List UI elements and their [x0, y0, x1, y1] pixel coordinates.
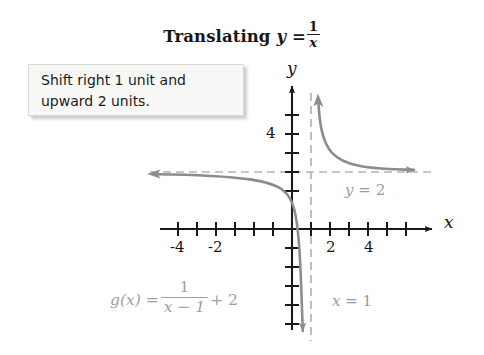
v-asym-equals: = [345, 292, 358, 310]
x-tick-label-2: 2 [326, 238, 336, 256]
x-axis-label: x [444, 212, 454, 232]
h-asym-variable: y [345, 181, 353, 199]
curve-right-branch [318, 101, 414, 170]
function-plus-term: + 2 [210, 291, 238, 309]
function-argument: (x) [120, 291, 141, 309]
function-fraction-numerator: 1 [161, 279, 208, 298]
h-asym-value: 2 [376, 181, 386, 199]
horizontal-asymptote-label: y = 2 [345, 181, 385, 199]
function-name: g [110, 291, 120, 309]
x-tick-label-4: 4 [364, 238, 374, 256]
function-fraction-denominator: x − 1 [161, 298, 208, 316]
h-asym-equals: = [358, 181, 371, 199]
y-axis-label: y [287, 58, 297, 78]
x-tick-label-neg2: -2 [208, 238, 223, 256]
coordinate-plane-svg [0, 0, 484, 355]
function-equals: = [146, 291, 159, 309]
x-tick-label-neg4: -4 [170, 238, 185, 256]
vertical-asymptote-label: x = 1 [332, 292, 372, 310]
v-asym-value: 1 [363, 292, 373, 310]
function-equation-label: g(x) =1x − 1+ 2 [110, 279, 238, 315]
figure-container: Translating y =1x Shift right 1 unit and… [0, 0, 484, 355]
v-asym-variable: x [332, 292, 340, 310]
y-tick-label-4: 4 [266, 124, 276, 142]
function-fraction: 1x − 1 [161, 279, 208, 315]
